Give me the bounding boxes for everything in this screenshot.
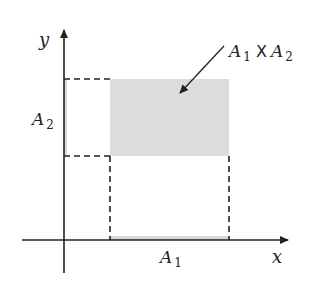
a2-subscript: 2 — [46, 118, 54, 132]
a2-label: A2 — [30, 109, 54, 132]
a2-symbol: A — [30, 109, 44, 129]
a1-subscript: 1 — [174, 256, 182, 270]
a1-symbol: A — [158, 247, 172, 267]
product-left-symbol: A — [227, 41, 241, 61]
product-right-subscript: 2 — [285, 50, 293, 64]
product-right-symbol: A — [269, 41, 283, 61]
product-label: A1XA2 — [227, 41, 293, 64]
product-left-subscript: 1 — [243, 50, 251, 64]
x-axis-label: x — [272, 246, 282, 267]
y-axis-label: y — [38, 29, 50, 50]
product-region — [110, 79, 229, 156]
product-operator: X — [256, 42, 267, 61]
a1-label: A1 — [158, 247, 182, 270]
cartesian-product-diagram: y x A2 A1 A1XA2 — [0, 0, 315, 285]
